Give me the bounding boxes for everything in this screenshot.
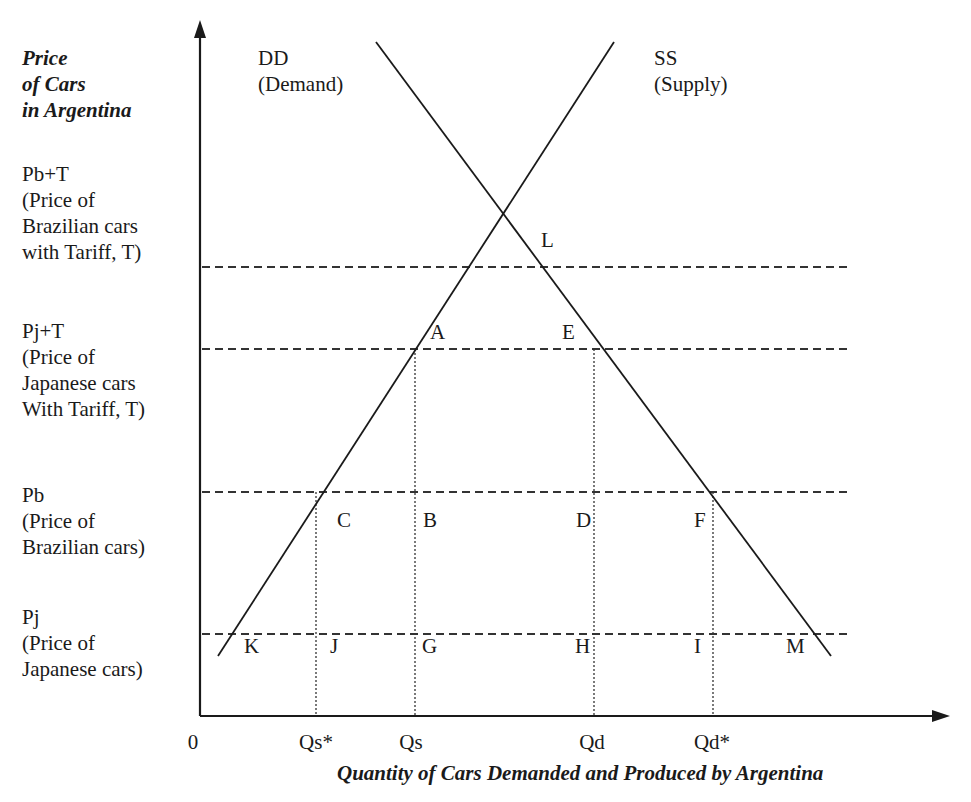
y-axis-title: Price of Cars in Argentina <box>22 45 132 123</box>
point-label-f: F <box>694 509 706 531</box>
origin-label: 0 <box>188 730 199 754</box>
price-label-pj: Pj (Price of Japanese cars) <box>22 604 143 682</box>
point-label-b: B <box>423 509 437 531</box>
point-label-l: L <box>541 229 554 251</box>
price-label-pjt: Pj+T (Price of Japanese cars With Tariff… <box>22 318 145 422</box>
point-label-e: E <box>562 321 575 343</box>
point-label-j: J <box>330 635 338 657</box>
point-label-a: A <box>430 321 445 343</box>
price-lines <box>202 267 848 634</box>
quantity-lines <box>316 349 713 716</box>
point-label-h: H <box>575 635 590 657</box>
point-label-m: M <box>786 635 805 657</box>
tick-qs-star: Qs* <box>299 730 333 754</box>
point-label-i: I <box>694 635 701 657</box>
x-axis <box>200 710 950 722</box>
tick-qd-star: Qd* <box>694 730 730 754</box>
point-label-c: C <box>337 509 351 531</box>
tick-qs: Qs <box>399 730 422 754</box>
y-axis-arrow-icon <box>194 20 206 38</box>
price-label-pb: Pb (Price of Brazilian cars) <box>22 482 145 560</box>
y-axis <box>194 20 206 716</box>
supply-curve-label: SS (Supply) <box>654 45 728 97</box>
x-axis-title: Quantity of Cars Demanded and Produced b… <box>337 760 823 786</box>
point-label-k: K <box>244 635 259 657</box>
point-label-d: D <box>576 509 591 531</box>
point-label-g: G <box>422 635 437 657</box>
demand-curve-label: DD (Demand) <box>258 45 343 97</box>
tick-qd: Qd <box>579 730 605 754</box>
price-label-pbt: Pb+T (Price of Brazilian cars with Tarif… <box>22 161 141 265</box>
x-axis-arrow-icon <box>932 710 950 722</box>
diagram-canvas <box>0 0 971 802</box>
